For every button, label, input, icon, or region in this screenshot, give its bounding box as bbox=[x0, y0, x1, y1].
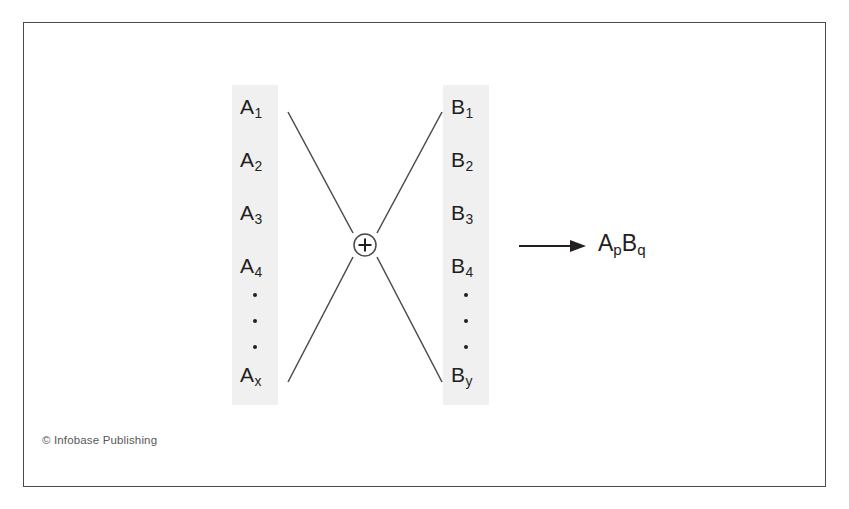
ellipsis-dot-b-3 bbox=[464, 345, 468, 349]
term-b4: B4 bbox=[451, 255, 473, 276]
term-a1: A1 bbox=[240, 96, 262, 117]
term-b1: B1 bbox=[451, 96, 473, 117]
figure-border bbox=[23, 22, 826, 487]
term-a4: A4 bbox=[240, 255, 262, 276]
ellipsis-dot-a-2 bbox=[253, 319, 257, 323]
term-a2: A2 bbox=[240, 149, 262, 170]
figure-root: A1 A2 A3 A4 Ax B1 B2 B3 B4 By bbox=[0, 0, 849, 509]
ellipsis-dot-a-1 bbox=[253, 293, 257, 297]
term-ax: Ax bbox=[240, 364, 261, 385]
copyright-note: © Infobase Publishing bbox=[42, 434, 157, 446]
product-term: ApBq bbox=[598, 232, 646, 255]
term-b3: B3 bbox=[451, 202, 473, 223]
term-by: By bbox=[451, 364, 472, 385]
ellipsis-dot-b-2 bbox=[464, 319, 468, 323]
reactant-column-a-band bbox=[232, 85, 278, 405]
term-b2: B2 bbox=[451, 149, 473, 170]
reactant-column-b-band bbox=[443, 85, 489, 405]
term-a3: A3 bbox=[240, 202, 262, 223]
ellipsis-dot-b-1 bbox=[464, 293, 468, 297]
ellipsis-dot-a-3 bbox=[253, 345, 257, 349]
